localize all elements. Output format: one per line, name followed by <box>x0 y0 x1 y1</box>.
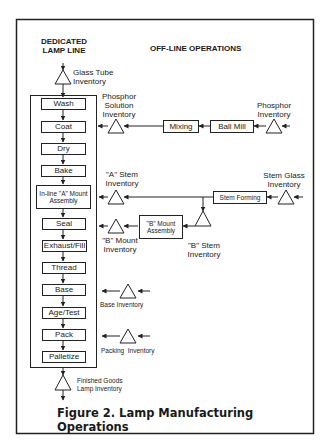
figure-caption: Figure 2. Lamp Manufacturing Operations <box>57 406 324 434</box>
glass-tube-inventory-label: Glass Tube Inventory <box>73 68 113 86</box>
base-inventory-label: Base Inventory <box>100 301 143 309</box>
label-line: "B" Stem <box>186 241 222 250</box>
step-palletize: Palletize <box>42 351 86 363</box>
process-mixing: Mixing <box>163 120 199 133</box>
label-line: "A" Stem <box>104 170 140 179</box>
step-inline-a-mount-assembly: In-line "A" Mount Assembly <box>36 185 91 209</box>
label-line: Phosphor <box>101 92 137 101</box>
step-seal: Seal <box>42 218 86 230</box>
step-pack: Pack <box>42 329 86 341</box>
phosphor-inventory-label: Phosphor Inventory <box>256 101 292 119</box>
inventory-triangle <box>55 70 71 84</box>
stem-glass-inventory-label: Stem Glass Inventory <box>259 171 309 189</box>
label-line: Lamp Inventory <box>77 385 123 393</box>
label-line: Inventory <box>101 110 137 119</box>
label-line: "B" Mount <box>100 236 140 245</box>
step-dry: Dry <box>41 143 86 155</box>
a-stem-inventory-label: "A" Stem Inventory <box>104 170 140 188</box>
label-line: Inventory <box>256 110 292 119</box>
dedicated-line-header: DEDICATED LAMP LINE <box>40 37 88 55</box>
label-line: Glass Tube <box>73 68 113 77</box>
step-age-test: Age/Test <box>42 307 86 319</box>
step-exhaust-fill: Exhaust/Fill <box>42 240 87 252</box>
label-line: Phosphor <box>256 101 292 110</box>
label-line: Finished Goods <box>77 377 123 385</box>
header-line-2: LAMP LINE <box>40 46 88 55</box>
b-mount-inventory-label: "B" Mount Inventory <box>100 236 140 254</box>
step-thread: Thread <box>42 262 86 274</box>
step-coat: Coat <box>41 121 86 133</box>
step-wash: Wash <box>41 98 86 110</box>
packing-inventory-label: Packing Inventory <box>101 347 154 355</box>
label-line: Stem Glass <box>259 171 309 180</box>
process-b-mount-assembly: "B" Mount Assembly <box>139 215 183 239</box>
offline-operations-header: OFF-LINE OPERATIONS <box>150 44 241 53</box>
step-bake: Bake <box>41 165 86 177</box>
b-stem-inventory-label: "B" Stem Inventory <box>186 241 222 259</box>
process-ball-mill: Ball Mill <box>210 120 254 133</box>
process-stem-forming: Stem Forming <box>213 191 267 204</box>
header-line-1: DEDICATED <box>40 37 88 46</box>
label-line: Inventory <box>186 250 222 259</box>
finished-goods-inventory-label: Finished Goods Lamp Inventory <box>77 377 123 392</box>
label-line: Inventory <box>100 245 140 254</box>
label-line: Solution <box>101 101 137 110</box>
label-line: Inventory <box>259 180 309 189</box>
phosphor-solution-inventory-label: Phosphor Solution Inventory <box>101 92 137 119</box>
label-line: Inventory <box>73 77 113 86</box>
step-base: Base <box>42 284 86 296</box>
label-line: Inventory <box>104 179 140 188</box>
